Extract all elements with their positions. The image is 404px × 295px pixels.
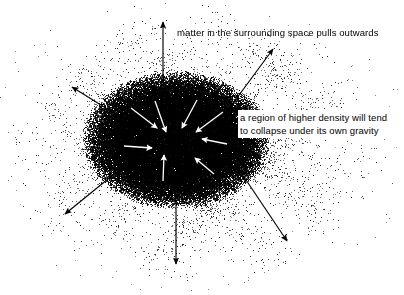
outward-arrow-3 (72, 87, 125, 120)
outward-arrow-4 (65, 166, 124, 214)
inward-arrow-2 (182, 100, 197, 128)
inward-arrow-6 (202, 139, 227, 144)
outward-arrows-group (65, 22, 287, 264)
outward-arrow-2 (231, 49, 273, 106)
inward-arrow-7 (163, 155, 164, 181)
annotation-outward-pull: matter in the surrounding space pulls ou… (177, 26, 392, 39)
inward-arrows-group (124, 100, 227, 181)
inward-arrow-3 (131, 108, 157, 128)
inward-arrow-8 (195, 158, 214, 174)
arrow-layer (0, 0, 404, 295)
inward-arrow-5 (124, 146, 152, 148)
gravitational-collapse-diagram: matter in the surrounding space pulls ou… (0, 0, 404, 295)
annotation-higher-density-collapse: a region of higher density will tend to … (238, 110, 392, 138)
inward-arrow-4 (196, 112, 223, 132)
outward-arrow-6 (238, 168, 287, 241)
